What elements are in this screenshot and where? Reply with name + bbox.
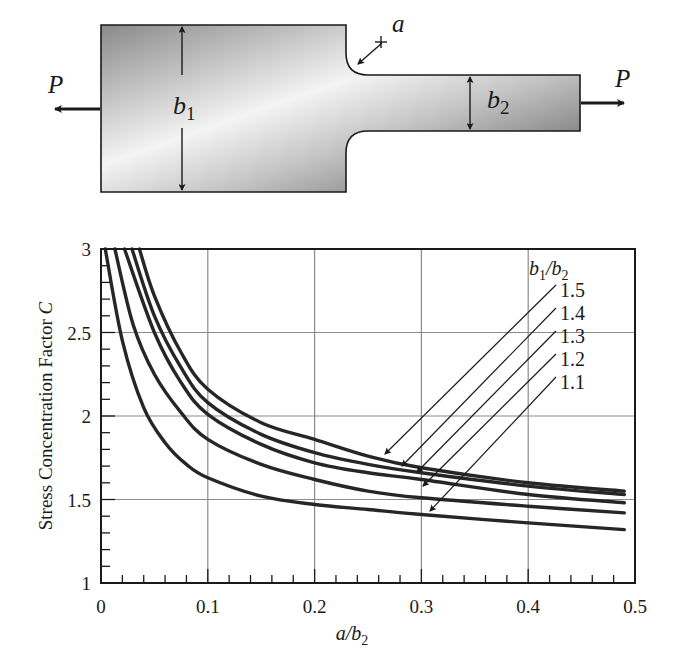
gridlines — [101, 249, 635, 583]
y-tick-label: 1 — [82, 573, 92, 594]
y-tick-labels: 11.522.53 — [67, 239, 91, 594]
figure: P P b1 b2 a 00.10.20.30.40.5 11.522.53 a… — [0, 0, 675, 671]
y-tick-label: 3 — [82, 239, 92, 260]
fillet-radius-arrow — [358, 43, 382, 64]
y-tick-label: 1.5 — [67, 490, 91, 511]
x-tick-label: 0.5 — [623, 596, 647, 617]
legend-label-1-4: 1.4 — [560, 302, 585, 324]
right-load-label: P — [614, 65, 630, 92]
legend-leader-arrow — [385, 285, 556, 454]
legend-leader-arrow — [402, 308, 556, 466]
y-tick-label: 2 — [82, 406, 92, 427]
legend-label-1-2: 1.2 — [560, 348, 585, 370]
stepped-bar-diagram: P P b1 b2 a — [47, 10, 630, 192]
y-tick-label: 2.5 — [67, 323, 91, 344]
left-load-label: P — [47, 71, 63, 98]
legend-label-1-3: 1.3 — [560, 325, 585, 347]
x-tick-label: 0.2 — [303, 596, 327, 617]
curves — [105, 249, 624, 530]
x-tick-labels: 00.10.20.30.40.5 — [96, 596, 647, 617]
fillet-radius-label: a — [392, 10, 405, 37]
x-tick-label: 0.4 — [516, 596, 540, 617]
legend-leader-arrow — [423, 354, 556, 486]
x-tick-label: 0 — [96, 596, 106, 617]
curve-b1b2-1-5 — [139, 249, 624, 491]
x-axis-label: a/b2 — [336, 622, 369, 648]
legend-label-1-1: 1.1 — [560, 371, 585, 393]
chart: 00.10.20.30.40.5 11.522.53 a/b2 Stress C… — [35, 239, 647, 648]
legend-label-1-5: 1.5 — [560, 279, 585, 301]
x-tick-label: 0.1 — [196, 596, 220, 617]
x-tick-label: 0.3 — [410, 596, 434, 617]
y-axis-label: Stress Concentration Factor C — [35, 301, 56, 530]
